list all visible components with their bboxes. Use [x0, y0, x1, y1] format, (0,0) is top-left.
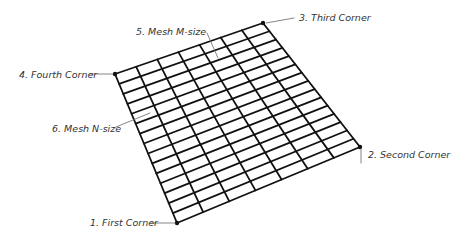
label-third-corner: 3. Third Corner: [299, 13, 371, 23]
corner-point: [175, 221, 179, 225]
label-second-corner: 2. Second Corner: [368, 150, 450, 160]
mesh-grid: [113, 21, 362, 225]
leader-third-corner: [266, 18, 294, 23]
corner-point: [261, 21, 265, 25]
label-fourth-corner: 4. Fourth Corner: [19, 70, 97, 80]
corner-point: [358, 145, 362, 149]
mesh-column-line: [263, 23, 360, 147]
mesh-diagram: [0, 0, 452, 241]
label-mesh-m-size: 5. Mesh M-size: [136, 27, 206, 37]
corner-point: [113, 72, 117, 76]
label-first-corner: 1. First Corner: [90, 218, 158, 228]
label-mesh-n-size: 6. Mesh N-size: [52, 124, 121, 134]
leader-mesh-m-size: [207, 33, 218, 58]
